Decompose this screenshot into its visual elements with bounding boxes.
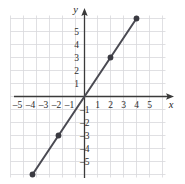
x-tick-label-2: 2 [108,100,113,110]
data-point [108,55,114,61]
x-tick-label-3: 3 [121,100,126,110]
y-tick-label--1: –1 [79,105,90,115]
data-point [30,172,36,178]
y-tick-label-4: 4 [74,40,79,50]
y-tick-label--5: –5 [79,157,90,167]
y-tick-label-2: 2 [74,66,79,76]
y-tick-label--3: –3 [79,131,90,141]
x-tick-label--3: –3 [38,100,49,110]
x-tick-label-4: 4 [134,100,139,110]
x-tick-label-5: 5 [147,100,152,110]
graph-figure: –5 –4 –3 –2 –1 1 2 3 4 5 5 4 3 2 1 –1 –2… [0,0,185,184]
y-tick-label-5: 5 [74,27,79,37]
y-tick-label--2: –2 [79,118,90,128]
y-tick-label--4: –4 [79,144,90,154]
y-tick-label-1: 1 [74,79,79,89]
x-tick-label--4: –4 [25,100,36,110]
x-tick-label--2: –2 [51,100,62,110]
x-tick-label--1: –1 [64,100,75,110]
data-point [56,133,62,139]
x-axis [14,93,174,99]
coordinate-plane-svg: –5 –4 –3 –2 –1 1 2 3 4 5 5 4 3 2 1 –1 –2… [0,0,185,184]
x-tick-label-1: 1 [95,100,100,110]
x-axis-name: x [168,99,174,110]
y-tick-label-3: 3 [74,53,79,63]
x-tick-label--5: –5 [12,100,23,110]
y-axis-name: y [72,4,78,15]
data-point [134,16,140,22]
